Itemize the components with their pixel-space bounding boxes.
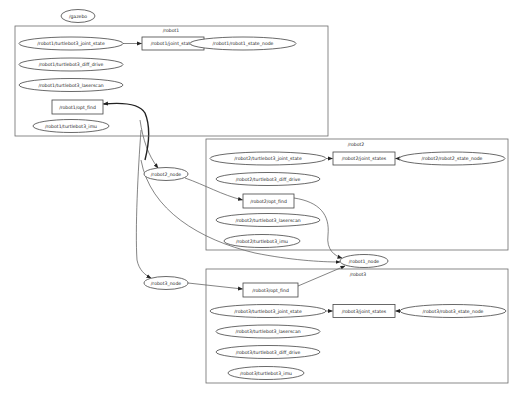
node-robot2-laserscan[interactable]: /robot2/turtlebot3_laserscan [216,214,320,227]
topic-robot1-opt-find[interactable]: /robot1/opt_find [52,100,103,114]
node-robot1-imu[interactable]: /robot1/turtlebot3_imu [33,120,109,133]
node-robot2-node[interactable]: /robot2_node [144,168,188,181]
node-robot1-laserscan[interactable]: /robot1/turtlebot3_laserscan [19,79,123,92]
topic-robot3-opt-find[interactable]: /robot3/opt_find [243,283,298,297]
cluster-robot2: /robot2 /robot2/turtlebot3_joint_state /… [206,139,508,250]
node-robot3-imu[interactable]: /robot3/turtlebot3_imu [228,367,304,380]
node-gazebo-label: /gazebo [69,14,87,19]
node-robot1-node[interactable]: /robot1_node [340,255,388,268]
node-robot2-imu[interactable]: /robot2/turtlebot3_imu [224,235,300,248]
cluster-robot3-label: /robot3 [350,272,367,277]
topic-robot3-joint-states[interactable]: /robot3/joint_states [333,305,395,318]
node-robot3-diff-drive[interactable]: /robot3/turtlebot3_diff_drive [216,346,320,359]
ros-node-graph: /gazebo /robot1 /robot1/turtlebot3_joint… [0,0,522,397]
edge-robot2-opt-find-to-robot1-node [294,198,342,258]
edge-robot3-node-to-robot3-opt-find [188,283,243,289]
node-robot2-diff-drive[interactable]: /robot2/turtlebot3_diff_drive [216,173,320,186]
cluster-robot1-label: /robot1 [163,28,180,33]
cluster-robot3: /robot3 /robot3/opt_find /robot3/turtleb… [206,269,508,383]
cluster-robot2-label: /robot2 [348,142,365,147]
cluster-robot1: /robot1 /robot1/turtlebot3_joint_state /… [15,26,328,136]
node-gazebo[interactable]: /gazebo [61,10,95,23]
node-robot3-node[interactable]: /robot3_node [144,277,188,290]
node-robot1-state-node[interactable]: /robot1/robot1_state_node [190,37,296,50]
node-robot1-diff-drive[interactable]: /robot1/turtlebot3_diff_drive [19,58,123,71]
node-robot3-state-node[interactable]: /robot3/robot3_state_node [400,305,506,318]
node-robot3-joint-state[interactable]: /robot3/turtlebot3_joint_state [210,305,326,318]
node-robot1-joint-state[interactable]: /robot1/turtlebot3_joint_state [19,37,123,50]
topic-robot2-joint-states[interactable]: /robot2/joint_states [333,152,395,165]
node-robot2-state-node[interactable]: /robot2/robot2_state_node [399,152,505,165]
node-robot3-laserscan[interactable]: /robot3/turtlebot3_laserscan [216,325,320,338]
node-robot2-joint-state[interactable]: /robot2/turtlebot3_joint_state [210,152,326,165]
topic-robot2-opt-find[interactable]: /robot2/opt_find [243,194,294,208]
